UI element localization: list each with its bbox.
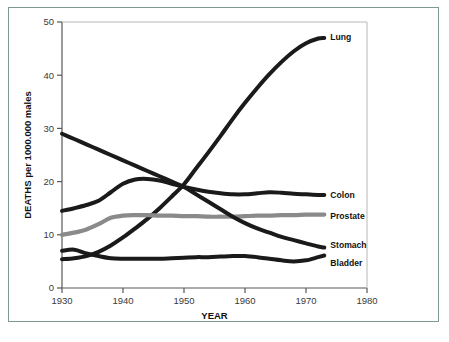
series-layer	[62, 38, 324, 261]
figure-container: 01020304050193019401950196019701980 Lung…	[0, 0, 449, 342]
x-tick-label: 1980	[356, 295, 377, 306]
y-tick-label: 40	[43, 70, 54, 81]
x-axis-title: YEAR	[201, 310, 228, 321]
y-tick-label: 20	[43, 176, 54, 187]
x-tick-label: 1950	[173, 295, 194, 306]
series-line-prostate	[62, 215, 324, 235]
y-axis-title: DEATHS per 1000.000 males	[22, 91, 33, 219]
x-tick-label: 1930	[51, 295, 72, 306]
x-tick-label: 1940	[112, 295, 133, 306]
y-tick-label: 0	[49, 282, 54, 293]
series-label-bladder: Bladder	[330, 258, 363, 268]
series-label-stomach: Stomach	[330, 240, 366, 250]
series-label-colon: Colon	[330, 190, 354, 200]
series-line-stomach	[62, 134, 324, 248]
y-tick-label: 50	[43, 16, 54, 27]
line-chart: 01020304050193019401950196019701980 Lung…	[0, 0, 449, 342]
x-tick-label: 1960	[234, 295, 255, 306]
series-label-layer: LungColonProstateStomachBladder	[330, 32, 366, 268]
series-label-prostate: Prostate	[330, 211, 365, 221]
series-label-lung: Lung	[330, 32, 351, 42]
y-tick-label: 30	[43, 123, 54, 134]
x-tick-label: 1970	[295, 295, 316, 306]
series-line-lung	[62, 38, 324, 259]
series-line-colon	[62, 179, 324, 211]
y-tick-label: 10	[43, 229, 54, 240]
axis-layer: 01020304050193019401950196019701980	[43, 16, 377, 306]
